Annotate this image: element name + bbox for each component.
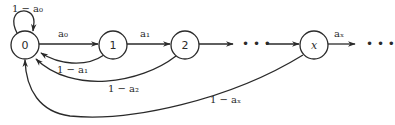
node-2: 2 bbox=[171, 31, 199, 59]
label-edge-0-to-1: a₀ bbox=[58, 28, 68, 39]
edge-self-loop-0 bbox=[14, 11, 34, 33]
node-x: x bbox=[300, 31, 328, 59]
label-edge-1-to-0: 1 − a₁ bbox=[57, 64, 88, 75]
label-edge-x-to-0: 1 − aₓ bbox=[210, 94, 241, 105]
node-0-label: 0 bbox=[22, 39, 29, 52]
node-2-label: 2 bbox=[182, 39, 189, 52]
state-diagram: 1 − a₀ a₀ a₁ • • • aₓ • • • 1 − a₁ 1 − a… bbox=[0, 0, 395, 125]
label-self-loop-0: 1 − a₀ bbox=[12, 3, 43, 14]
ellipsis-2: • • • bbox=[366, 37, 395, 51]
node-0: 0 bbox=[11, 31, 39, 59]
label-edge-1-to-2: a₁ bbox=[140, 28, 150, 39]
node-x-label: x bbox=[311, 39, 318, 52]
edge-1-to-0 bbox=[41, 53, 104, 63]
label-edge-2-to-0: 1 − a₂ bbox=[108, 83, 139, 94]
label-edge-x: aₓ bbox=[334, 28, 344, 39]
node-1-label: 1 bbox=[110, 39, 117, 52]
node-1: 1 bbox=[99, 31, 127, 59]
